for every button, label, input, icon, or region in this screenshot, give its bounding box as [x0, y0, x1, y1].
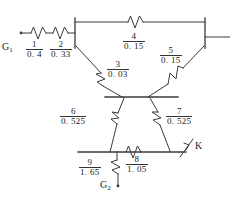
figure-canvas: G1 1 0. 4 2 0. 33 4 0. 15 5 0. 15 3 0. 0…: [0, 0, 230, 198]
branch-7-index: 7: [166, 107, 192, 116]
generator-g1-label: G1: [2, 42, 13, 54]
resistor-5-symbol: [168, 66, 183, 84]
branch-5-lead-upper: [183, 46, 204, 68]
branch-9-label: 9 1. 65: [79, 158, 101, 178]
branch-5-label: 5 0. 15: [160, 46, 182, 66]
branch-5-value: 0. 15: [160, 55, 182, 65]
branch-3-value: 0. 03: [107, 69, 129, 79]
resistor-4-symbol: [128, 16, 143, 28]
branch-8-value: 1. 05: [126, 164, 148, 174]
resistor-3-symbol: [96, 73, 105, 86]
branch-2-label: 2 0. 33: [50, 40, 72, 60]
branch-5-index: 5: [160, 46, 182, 55]
resistor-7-symbol: [152, 112, 161, 125]
resistor-1-symbol: [31, 27, 46, 39]
branch-7-value: 0. 525: [166, 116, 192, 126]
branch-1-index: 1: [26, 40, 43, 49]
resistor-6-symbol: [111, 112, 119, 124]
generator-g2-label: G2: [100, 180, 111, 192]
fault-arrow-k: [184, 143, 189, 150]
branch-7-lead-lower: [160, 125, 170, 151]
branch-6-label: 6 0. 525: [60, 107, 86, 127]
branch-3-index: 3: [107, 60, 129, 69]
fault-slash-k: [180, 139, 193, 157]
branch-6-lead-upper: [118, 98, 124, 113]
branch-6-lead-lower: [110, 124, 117, 152]
branch-9-index: 9: [79, 158, 101, 167]
resistor-9-symbol: [111, 160, 120, 174]
branch-1-value: 0. 4: [26, 49, 43, 59]
branch-6-index: 6: [60, 107, 86, 116]
branch-5-lead-lower: [148, 84, 168, 97]
branch-7-label: 7 0. 525: [166, 107, 192, 127]
resistor-2-symbol: [53, 27, 68, 39]
branch-9-value: 1. 65: [79, 167, 101, 177]
impedance-network-schematic: [0, 0, 230, 198]
branch-7-lead-upper: [150, 98, 158, 112]
branch-2-value: 0. 33: [50, 49, 72, 59]
branch-3-label: 3 0. 03: [107, 60, 129, 80]
branch-1-label: 1 0. 4: [26, 40, 43, 60]
branch-8-label: 8 1. 05: [126, 155, 148, 175]
branch-8-index: 8: [126, 155, 148, 164]
branch-3-lead-upper: [76, 46, 101, 73]
branch-6-value: 0. 525: [60, 116, 86, 126]
branch-3-lead-lower: [103, 86, 122, 97]
g2-terminal-dot: [117, 185, 120, 188]
branch-4-value: 0. 15: [123, 41, 145, 51]
fault-point-k-label: K: [195, 141, 202, 151]
branch-2-index: 2: [50, 40, 72, 49]
branch-4-label: 4 0. 15: [123, 32, 145, 52]
branch-4-index: 4: [123, 32, 145, 41]
